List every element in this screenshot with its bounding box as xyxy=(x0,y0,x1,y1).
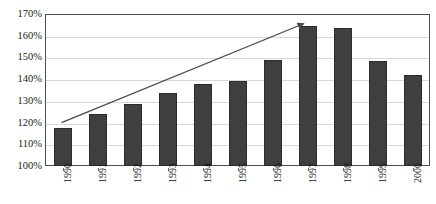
x-tick-label: 1999 xyxy=(378,163,388,183)
y-tick-label: 120% xyxy=(0,117,42,128)
x-axis: 1990199119921993199419951996199719981999… xyxy=(45,168,430,204)
y-tick-label: 130% xyxy=(0,96,42,107)
bar-slot xyxy=(54,14,72,166)
x-tick-label: 1997 xyxy=(308,163,318,183)
bar-slot xyxy=(159,14,177,166)
y-tick-label: 110% xyxy=(0,139,42,150)
x-tick-label: 1994 xyxy=(203,163,213,183)
y-tick-label: 100% xyxy=(0,161,42,172)
x-tick-label: 1995 xyxy=(238,163,248,183)
bar-slot xyxy=(299,14,317,166)
bar[interactable] xyxy=(194,84,212,167)
bar[interactable] xyxy=(299,26,317,166)
bar-chart: 100%110%120%130%140%150%160%170% 1990199… xyxy=(0,0,436,204)
bar[interactable] xyxy=(54,128,72,166)
x-tick-label: 1996 xyxy=(273,163,283,183)
bar[interactable] xyxy=(369,61,387,166)
y-tick-label: 150% xyxy=(0,52,42,63)
bar[interactable] xyxy=(264,60,282,166)
x-tick-label: 1990 xyxy=(63,163,73,183)
y-tick-label: 160% xyxy=(0,30,42,41)
bar-slot xyxy=(404,14,422,166)
bar-slot xyxy=(229,14,247,166)
bar-slot xyxy=(124,14,142,166)
bar[interactable] xyxy=(334,28,352,166)
bar-slot xyxy=(334,14,352,166)
bar-slot xyxy=(369,14,387,166)
y-tick-label: 140% xyxy=(0,74,42,85)
x-tick-label: 2000 xyxy=(413,163,423,183)
bar[interactable] xyxy=(229,81,247,166)
bar[interactable] xyxy=(159,93,177,166)
bar[interactable] xyxy=(404,75,422,166)
x-tick-label: 1998 xyxy=(343,163,353,183)
x-tick-label: 1992 xyxy=(133,163,143,183)
bar[interactable] xyxy=(124,104,142,166)
bar-slot xyxy=(264,14,282,166)
x-tick-label: 1991 xyxy=(98,163,108,183)
x-tick-label: 1993 xyxy=(168,163,178,183)
bars-layer xyxy=(45,14,430,166)
y-tick-label: 170% xyxy=(0,9,42,20)
bar-slot xyxy=(89,14,107,166)
bar-slot xyxy=(194,14,212,166)
bar[interactable] xyxy=(89,114,107,166)
